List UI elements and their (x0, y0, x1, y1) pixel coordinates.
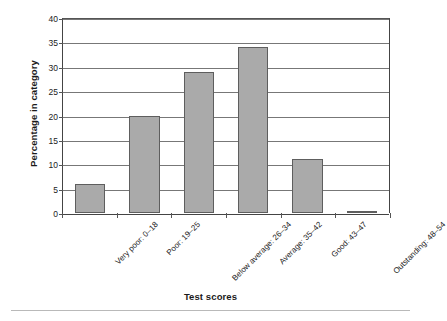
y-tick-label: 25 (49, 87, 58, 97)
bar-slot (280, 19, 334, 213)
bar-slot (63, 19, 117, 213)
y-tick-label: 10 (49, 160, 58, 170)
x-tick-mark (335, 213, 336, 218)
bar (184, 72, 214, 213)
bar (129, 116, 159, 214)
bar (347, 211, 377, 213)
bar (238, 47, 268, 213)
x-category-label: Good: 43–47 (330, 220, 369, 259)
y-tick-label: 5 (53, 185, 58, 195)
x-category-label: Very poor: 0–18 (114, 220, 160, 266)
y-tick-label: 35 (49, 38, 58, 48)
y-tick-label: 30 (49, 63, 58, 73)
y-tick-label: 40 (49, 14, 58, 24)
bar-slot (172, 19, 226, 213)
y-tick-label: 0 (53, 209, 58, 219)
x-tick-mark (117, 213, 118, 218)
y-tick-label: 20 (49, 112, 58, 122)
x-tick-mark (226, 213, 227, 218)
x-axis-title: Test scores (0, 291, 421, 302)
bar (75, 184, 105, 213)
bar-series (63, 19, 389, 213)
bar-slot (117, 19, 171, 213)
x-tick-mark (171, 213, 172, 218)
x-category-label: Poor: 19–25 (165, 220, 202, 257)
bar-slot (335, 19, 389, 213)
x-tick-mark (281, 213, 282, 218)
x-tick-mark (62, 213, 63, 218)
y-axis-title: Percentage in category (28, 19, 39, 209)
bar (292, 159, 322, 213)
x-category-label: Below average: 26–34 (230, 220, 293, 283)
bar-slot (226, 19, 280, 213)
x-tick-mark (390, 213, 391, 218)
x-category-label: Outstanding: 48–54 (391, 220, 447, 276)
bottom-divider (11, 310, 410, 311)
plot-area: 0510152025303540 (62, 18, 390, 213)
y-tick-label: 15 (49, 136, 58, 146)
